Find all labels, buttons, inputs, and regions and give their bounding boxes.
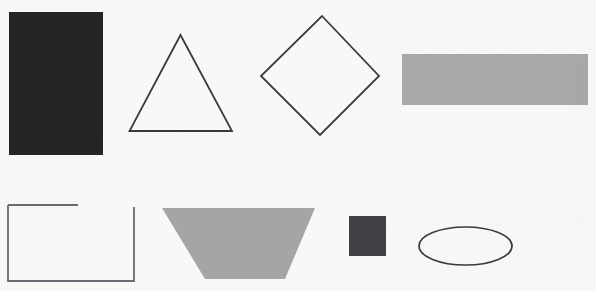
- shapes-svg: [0, 0, 596, 291]
- shape-layer: [0, 0, 596, 291]
- filled-dark-square: [349, 216, 386, 256]
- shapes-canvas: [0, 0, 596, 291]
- filled-gray-bar: [402, 54, 588, 105]
- filled-dark-rectangle: [9, 12, 103, 155]
